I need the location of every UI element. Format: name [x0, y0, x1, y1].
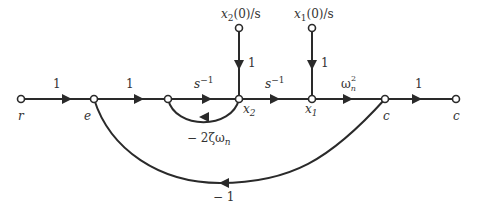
- label-c: c: [383, 109, 390, 123]
- node-x1-initial: [309, 25, 316, 32]
- arrow-outer-loop-icon: [219, 178, 229, 188]
- arrow-n3-x2-icon: [202, 94, 212, 104]
- arrow-x2-x1-icon: [270, 94, 280, 104]
- gain-x2-x1: s−1: [265, 75, 284, 91]
- node-x2: [236, 96, 243, 103]
- arrow-x1-c-icon: [343, 94, 353, 104]
- gain-inner-loop: − 2ζωn: [187, 131, 231, 147]
- gain-c-out: 1: [415, 77, 423, 91]
- node-x2-initial: [236, 25, 243, 32]
- arrow-e-n3-icon: [134, 94, 144, 104]
- arrow-c-out-icon: [412, 94, 422, 104]
- node-c-out: [453, 96, 460, 103]
- node-n3: [165, 96, 172, 103]
- gain-r-e: 1: [53, 77, 61, 91]
- label-x2-initial: x2(0)/s: [221, 7, 261, 23]
- gain-e-n3: 1: [126, 77, 134, 91]
- signal-flow-graph: r e x2 x1 c c x2(0)/s x1(0)/s 1 1 s−1 s−…: [0, 0, 477, 206]
- gain-x1-initial: 1: [321, 56, 329, 70]
- arrow-x1init-icon: [307, 60, 317, 70]
- arrow-r-e-icon: [62, 94, 72, 104]
- node-c: [382, 96, 389, 103]
- edge-outer-feedback: [94, 99, 385, 183]
- label-x1: x1: [305, 102, 318, 118]
- label-r: r: [18, 109, 25, 123]
- arrow-x2init-icon: [234, 60, 244, 70]
- label-c-out: c: [453, 109, 460, 123]
- label-x2: x2: [243, 102, 256, 118]
- label-e: e: [84, 109, 91, 123]
- gain-x2-initial: 1: [248, 56, 256, 70]
- gain-outer-loop: − 1: [213, 190, 235, 204]
- gain-n3-x2: s−1: [194, 75, 213, 91]
- node-e: [91, 96, 98, 103]
- node-r: [18, 96, 25, 103]
- label-x1-initial: x1(0)/s: [294, 7, 334, 23]
- gain-x1-c: ωn2: [341, 74, 356, 93]
- arrow-inner-loop-icon: [199, 112, 209, 122]
